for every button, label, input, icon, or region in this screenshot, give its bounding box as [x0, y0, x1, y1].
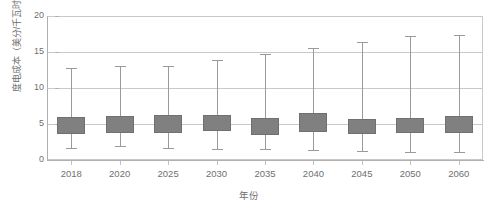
x-axis-tick-mark: [168, 161, 169, 165]
box-plot-item: [241, 16, 289, 160]
box-plot-item: [144, 16, 192, 160]
box-plot-item: [47, 16, 95, 160]
x-axis-tick-mark: [313, 161, 314, 165]
whisker-line: [362, 42, 363, 151]
box: [445, 116, 473, 133]
whisker-cap-upper: [115, 66, 126, 67]
box-plot-item: [95, 16, 143, 160]
box: [154, 115, 182, 133]
box: [251, 118, 279, 135]
whisker-cap-lower: [357, 151, 368, 152]
whisker-cap-lower: [212, 149, 223, 150]
box: [106, 116, 134, 133]
whisker-line: [217, 60, 218, 149]
whisker-line: [410, 36, 411, 152]
x-axis-title: 年份: [0, 188, 497, 202]
x-axis-tick-mark: [265, 161, 266, 165]
whisker-line: [120, 66, 121, 147]
x-axis-tick-mark: [459, 161, 460, 165]
x-axis-tick-mark: [362, 161, 363, 165]
x-axis-tick-label: 2060: [429, 168, 489, 179]
box: [203, 115, 231, 132]
y-axis-tick-label: 5: [18, 119, 44, 128]
whisker-cap-lower: [115, 146, 126, 147]
box: [57, 117, 85, 134]
x-axis-tick-mark: [120, 161, 121, 165]
whisker-line: [459, 35, 460, 152]
whisker-cap-upper: [66, 68, 77, 69]
box: [299, 113, 327, 132]
box-plot-item: [338, 16, 386, 160]
whisker-cap-upper: [308, 48, 319, 49]
x-axis-tick-mark: [217, 161, 218, 165]
whisker-cap-lower: [260, 149, 271, 150]
whisker-line: [313, 48, 314, 150]
box-plot-item: [192, 16, 240, 160]
whisker-cap-lower: [163, 148, 174, 149]
whisker-cap-lower: [308, 150, 319, 151]
chart-root: 05101520 度电成本（美分/千瓦时） 年份 201820202025203…: [0, 0, 497, 216]
whisker-cap-upper: [163, 66, 174, 67]
y-axis-title: 度电成本（美分/千瓦时）: [10, 0, 23, 112]
whisker-cap-lower: [405, 152, 416, 153]
box-plot-item: [386, 16, 434, 160]
whisker-cap-upper: [454, 35, 465, 36]
whisker-line: [71, 68, 72, 148]
box-plot-item: [289, 16, 337, 160]
whisker-cap-upper: [212, 60, 223, 61]
whisker-cap-upper: [357, 42, 368, 43]
whisker-cap-upper: [405, 36, 416, 37]
box-plot-item: [435, 16, 483, 160]
box: [348, 119, 376, 134]
box: [396, 118, 424, 133]
whisker-cap-lower: [66, 148, 77, 149]
x-axis-tick-mark: [410, 161, 411, 165]
y-axis-tick-mark: [55, 160, 59, 161]
whisker-cap-lower: [454, 152, 465, 153]
whisker-line: [265, 54, 266, 149]
y-axis-tick-label: 0: [18, 155, 44, 164]
whisker-line: [168, 66, 169, 149]
x-axis-tick-mark: [71, 161, 72, 165]
whisker-cap-upper: [260, 54, 271, 55]
